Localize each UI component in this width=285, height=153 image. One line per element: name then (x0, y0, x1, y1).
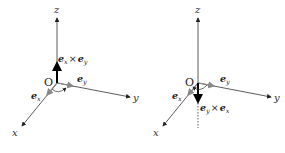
origin-label: O (44, 76, 53, 89)
rotation-arc (52, 88, 66, 92)
y-axis-label: y (132, 92, 139, 103)
z-axis-label: z (194, 4, 201, 15)
ex-label: ex (31, 90, 41, 103)
x-axis-label: x (12, 127, 18, 138)
cross-product-label: ey×ex (200, 102, 230, 115)
left-figure: z y x O ey ex ex×ey (12, 4, 139, 138)
ex-label: ex (172, 90, 182, 103)
ey-label: ey (77, 73, 87, 86)
right-figure: z y x O ey ex ey×ex (153, 4, 280, 138)
cross-product-diagram: z y x O ey ex ex×ey z y x O ey ex ey×ex (0, 0, 285, 153)
z-axis-label: z (53, 4, 60, 15)
ey-vector (58, 83, 73, 86)
y-axis-label: y (273, 92, 280, 103)
ey-label: ey (220, 73, 230, 86)
cross-product-label: ex×ey (58, 53, 88, 66)
x-axis-label: x (153, 127, 159, 138)
origin-label: O (185, 76, 194, 89)
